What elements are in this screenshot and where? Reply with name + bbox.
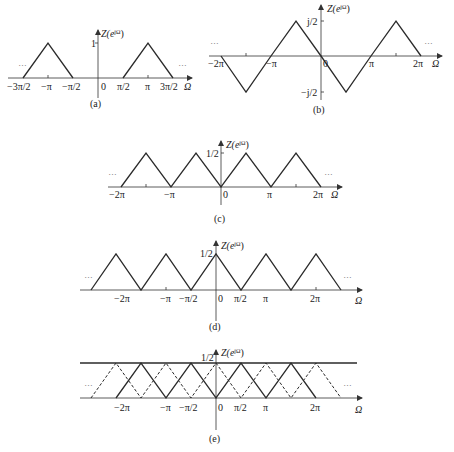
y-axis-label: Z(ejΩ) (221, 347, 244, 359)
ellipsis-left: … (84, 378, 93, 388)
ellipsis-left: … (84, 270, 93, 280)
caption-e: (e) (209, 433, 220, 445)
x-tick-label: π/2 (234, 402, 247, 413)
x-tick-label: 0 (218, 402, 223, 413)
x-tick-label: −π/2 (179, 293, 197, 304)
x-axis-label: Ω (331, 189, 338, 200)
y-axis-label: Z(ejΩ) (226, 139, 249, 151)
y-tick-label-top: j/2 (306, 16, 318, 27)
x-tick-label: −2π (109, 189, 125, 200)
plot-e: … … 1/2 Z(ejΩ) −2π −π −π/2 0 π/2 π 2π Ω … (80, 347, 362, 445)
y-tick-label: 1 (91, 38, 96, 49)
ellipsis-right: … (343, 378, 352, 388)
y-axis-label: Z(ejΩ) (327, 3, 350, 15)
caption-d: (d) (209, 321, 221, 333)
y-axis-label: Z(ejΩ) (101, 28, 124, 40)
triangle-right (123, 43, 173, 78)
ellipsis-left: … (18, 58, 27, 68)
x-tick-label: −π/2 (179, 402, 197, 413)
plot-d: … … 1/2 Z(ejΩ) −2π −π −π/2 0 π/2 π 2π Ω … (80, 240, 362, 333)
x-tick-label: −2π (114, 293, 130, 304)
plot-c: … … 1/2 Z(ejΩ) −2π −π 0 π 2π Ω (c) (108, 139, 342, 225)
ellipsis-right: … (424, 36, 433, 46)
x-tick-label: −π (266, 58, 277, 69)
ellipsis-left: … (108, 167, 117, 177)
x-tick-label: 2π (313, 189, 323, 200)
x-tick-label: 2π (310, 293, 320, 304)
y-tick-label: 1/2 (200, 248, 213, 259)
caption-c: (c) (214, 213, 225, 225)
x-tick-label: π (263, 402, 268, 413)
caption-a: (a) (90, 98, 101, 110)
x-tick-label: −2π (114, 402, 130, 413)
x-tick-label: π (263, 293, 268, 304)
x-tick-label: π (369, 58, 374, 69)
ellipsis-right: … (178, 58, 187, 68)
x-tick-label: 0 (223, 189, 228, 200)
ellipsis-right: … (324, 167, 333, 177)
caption-b: (b) (313, 104, 325, 116)
plot-b: … … j/2 −j/2 Z(ejΩ) −2π −π 0 π 2π Ω (b) (208, 3, 442, 116)
x-axis-label: Ω (355, 295, 362, 306)
x-tick-label: 0 (101, 81, 106, 92)
x-tick-label: 2π (310, 402, 320, 413)
x-tick-label: 3π/2 (160, 81, 178, 92)
x-tick-label: π (267, 189, 272, 200)
ellipsis-left: … (210, 36, 219, 46)
x-tick-label: −π (41, 81, 52, 92)
ellipsis-right: … (343, 270, 352, 280)
y-axis-label: Z(ejΩ) (221, 240, 244, 252)
x-tick-label: −π (164, 189, 175, 200)
plot-a: … … 1 Z(ejΩ) −3π/2 −π −π/2 0 π/2 π 3π/2 … (7, 28, 192, 110)
x-tick-label: 0 (323, 58, 328, 69)
figure-canvas: … … 1 Z(ejΩ) −3π/2 −π −π/2 0 π/2 π 3π/2 … (0, 0, 454, 452)
x-tick-label: −π (160, 293, 171, 304)
x-tick-label: −π (160, 402, 171, 413)
x-tick-label: −3π/2 (7, 81, 30, 92)
y-tick-label-bottom: −j/2 (301, 87, 317, 98)
x-tick-label: 0 (218, 293, 223, 304)
x-axis-label: Ω (355, 404, 362, 415)
y-tick-label: 1/2 (201, 352, 214, 363)
triangle-left (23, 43, 73, 78)
x-tick-label: π/2 (234, 293, 247, 304)
y-tick-label: 1/2 (206, 148, 219, 159)
x-axis-label: Ω (432, 58, 439, 69)
x-tick-label: 2π (413, 58, 423, 69)
x-tick-label: π (145, 81, 150, 92)
x-tick-label: −π/2 (62, 81, 80, 92)
x-tick-label: π/2 (117, 81, 130, 92)
x-axis-label: Ω (184, 81, 191, 92)
x-tick-label: −2π (208, 58, 224, 69)
